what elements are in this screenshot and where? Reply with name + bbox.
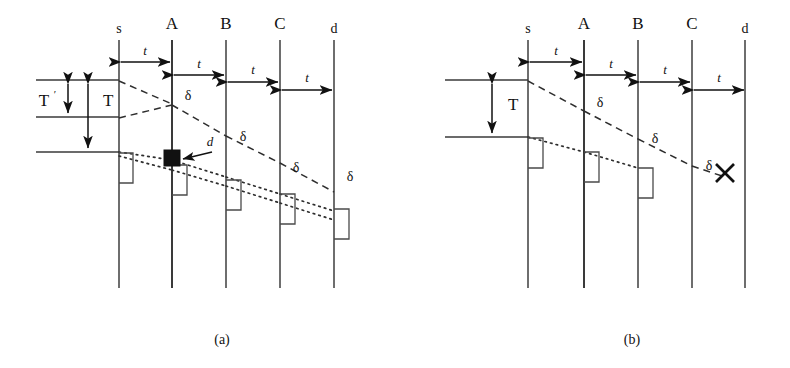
node-label-A-a: A [166, 14, 179, 33]
figure-root: s A B C d T ′ T t t t t [0, 0, 790, 368]
fault-marker-square-a [164, 150, 180, 166]
hop-label-3-a: t [251, 62, 255, 77]
node-label-s-b: s [525, 21, 530, 36]
node-label-B-b: B [632, 14, 643, 33]
timing-diagram-svg: s A B C d T ′ T t t t t [0, 0, 790, 368]
delay-label-1-b: δ [597, 95, 604, 110]
hop-label-4-b: t [717, 70, 721, 85]
interval-label-T-a: T [103, 91, 114, 110]
subfigure-caption-b: (b) [624, 332, 641, 348]
delay-label-2-a: δ [240, 129, 247, 144]
node-label-C-b: C [686, 14, 697, 33]
delay-label-1-a: δ [185, 88, 192, 103]
node-label-B-a: B [220, 14, 231, 33]
interval-label-Tprime-mark-a: ′ [54, 88, 56, 100]
hop-label-2-a: t [197, 56, 201, 71]
hop-label-1-b: t [554, 43, 558, 58]
node-label-d-b: d [742, 21, 749, 36]
interval-label-Tprime-a: T [39, 91, 50, 110]
node-label-A-b: A [578, 14, 591, 33]
delay-label-2-b: δ [652, 131, 659, 146]
interval-label-T-b: T [508, 95, 519, 114]
node-label-d-a: d [331, 21, 338, 36]
hop-label-1-a: t [143, 43, 147, 58]
delay-label-4-a: δ [347, 169, 354, 184]
marker-label-d-a: d [207, 134, 214, 149]
node-label-s-a: s [116, 21, 121, 36]
hop-label-4-a: t [305, 70, 309, 85]
delay-label-3-b: δ [706, 158, 713, 173]
delay-label-3-a: δ [293, 160, 300, 175]
subfigure-caption-a: (a) [214, 332, 230, 348]
hop-label-2-b: t [609, 56, 613, 71]
hop-label-3-b: t [663, 62, 667, 77]
node-label-C-a: C [274, 14, 285, 33]
